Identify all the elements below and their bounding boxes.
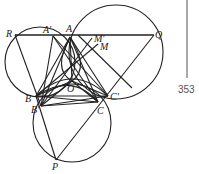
label-C-prime: C' — [110, 91, 120, 102]
label-O: O — [67, 83, 74, 94]
geometry-figure: R A' A M' M Q O B B' C' C P 353 — [0, 0, 199, 174]
label-B-prime: B' — [31, 104, 40, 115]
label-A: A — [65, 23, 73, 34]
label-R: R — [5, 28, 12, 39]
page-number: 353 — [178, 84, 195, 95]
label-P: P — [51, 161, 58, 172]
label-A-prime: A' — [42, 24, 52, 35]
label-B: B — [25, 93, 31, 104]
label-Q: Q — [155, 29, 163, 40]
label-C: C — [97, 105, 104, 116]
label-M: M — [99, 41, 109, 52]
circle-right — [69, 5, 163, 99]
